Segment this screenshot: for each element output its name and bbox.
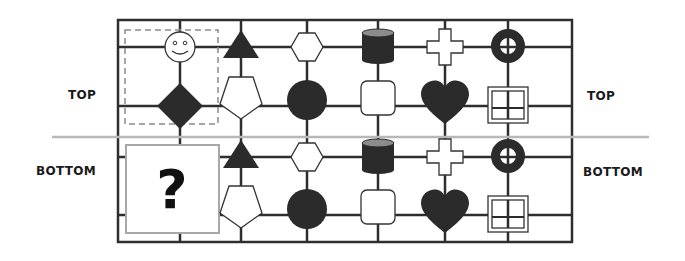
filled-circle-icon <box>287 189 327 229</box>
cross <box>427 139 463 175</box>
outline-pentagon-icon <box>220 77 262 119</box>
outline-hexagon-icon <box>291 33 323 61</box>
face-circle <box>165 32 195 62</box>
question-mark: ? <box>156 158 187 221</box>
triangle <box>223 30 259 58</box>
hexagon <box>291 33 323 61</box>
filled-circle-icon <box>287 80 327 120</box>
rounded-square <box>361 81 395 115</box>
filled-triangle-icon <box>223 30 259 58</box>
outline-window-icon <box>488 87 528 123</box>
bottom-label-left: BOTTOM <box>36 164 96 178</box>
circle <box>287 80 327 120</box>
shapes-layer: ? <box>125 29 528 233</box>
puzzle-diagram: ? <box>0 0 685 261</box>
diamond <box>157 83 203 129</box>
pentagon <box>220 186 262 228</box>
outline-rounded-square-icon <box>361 81 395 115</box>
filled-diamond-icon <box>157 83 203 129</box>
top-column-1 <box>125 30 218 129</box>
smiley-face-icon <box>165 32 195 62</box>
top-panel <box>125 29 528 129</box>
cross <box>427 29 463 65</box>
bottom-label-right: BOTTOM <box>583 165 643 179</box>
outline-cross-icon <box>427 139 463 175</box>
cylinder-body <box>362 33 394 64</box>
top-label-right: TOP <box>587 89 615 103</box>
bottom-panel: ? <box>126 139 528 233</box>
pentagon <box>220 77 262 119</box>
outline-pentagon-icon <box>220 186 262 228</box>
outline-rounded-square-icon <box>361 190 395 224</box>
filled-cylinder-icon <box>362 29 394 64</box>
cylinder-top <box>362 29 394 37</box>
hexagon <box>291 143 323 171</box>
outline-window-icon <box>488 196 528 232</box>
outline-hexagon-icon <box>291 143 323 171</box>
circle <box>287 189 327 229</box>
triangle <box>223 140 259 168</box>
cylinder-body <box>362 143 394 174</box>
filled-cylinder-icon <box>362 139 394 174</box>
cylinder-top <box>362 139 394 147</box>
outline-cross-icon <box>427 29 463 65</box>
top-label-left: TOP <box>68 88 96 102</box>
filled-triangle-icon <box>223 140 259 168</box>
rounded-square <box>361 190 395 224</box>
